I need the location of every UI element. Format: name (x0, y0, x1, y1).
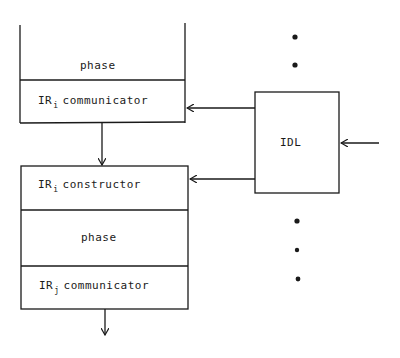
ellipsis-dot (296, 277, 301, 282)
phase-text: phase (81, 231, 117, 244)
ir-prefix: IR (38, 178, 52, 191)
idl-text: IDL (280, 136, 301, 149)
bottom-communicator-label: IRjcommunicator (39, 279, 149, 292)
bottom-phase-label: phase (81, 231, 117, 244)
ellipsis-dot (294, 218, 299, 223)
ir-prefix: IR (38, 94, 52, 107)
ir-subscript: i (53, 101, 58, 110)
ir-subscript: i (53, 185, 58, 194)
ellipsis-dot (295, 248, 299, 252)
top-communicator-label: IRicommunicator (38, 94, 148, 107)
ir-subscript: j (54, 286, 59, 295)
ellipsis-dot (292, 62, 297, 67)
communicator-text: communicator (63, 94, 148, 107)
top-phase-label: phase (80, 59, 116, 72)
constructor-text: constructor (63, 178, 141, 191)
ellipsis-dot (292, 34, 297, 39)
phase-text: phase (80, 59, 116, 72)
constructor-label: IRiconstructor (38, 178, 141, 191)
idl-label: IDL (280, 136, 301, 149)
communicator-text: communicator (64, 279, 149, 292)
top-block (20, 23, 185, 123)
ir-prefix: IR (39, 279, 53, 292)
